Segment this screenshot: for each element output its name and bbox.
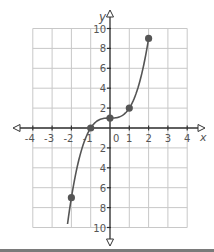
left-arrow-icon bbox=[13, 125, 20, 132]
cubic-function-graph: -4-3-2-11234108642246810 x y 0 bbox=[0, 0, 214, 252]
axes bbox=[13, 10, 205, 246]
data-point bbox=[87, 124, 94, 131]
data-point bbox=[145, 35, 152, 42]
origin-label: 0 bbox=[113, 133, 119, 144]
y-tick-label: 6 bbox=[100, 63, 106, 74]
up-arrow-icon bbox=[107, 10, 114, 17]
down-arrow-icon bbox=[107, 239, 114, 246]
y-tick-label: 4 bbox=[100, 83, 106, 94]
y-tick-label: 4 bbox=[100, 163, 106, 174]
x-tick-label: 1 bbox=[126, 133, 132, 144]
data-point bbox=[68, 194, 75, 201]
x-tick-label: -4 bbox=[25, 133, 35, 144]
x-tick-label: 2 bbox=[145, 133, 151, 144]
y-tick-label: 8 bbox=[100, 43, 106, 54]
y-tick-label: 2 bbox=[100, 143, 106, 154]
function-curve bbox=[68, 38, 149, 224]
data-point bbox=[106, 114, 113, 121]
x-tick-label: 3 bbox=[165, 133, 171, 144]
x-tick-label: 4 bbox=[184, 133, 190, 144]
x-tick-label: -2 bbox=[63, 133, 73, 144]
y-tick-label: 6 bbox=[100, 183, 106, 194]
y-tick-label: 10 bbox=[93, 24, 106, 35]
y-tick-label: 2 bbox=[100, 103, 106, 114]
x-tick-label: -3 bbox=[44, 133, 54, 144]
y-tick-label: 8 bbox=[100, 203, 106, 214]
x-axis-label: x bbox=[199, 131, 207, 144]
y-tick-label: 10 bbox=[93, 223, 106, 234]
data-point bbox=[126, 105, 133, 112]
y-axis-label: y bbox=[98, 10, 107, 24]
